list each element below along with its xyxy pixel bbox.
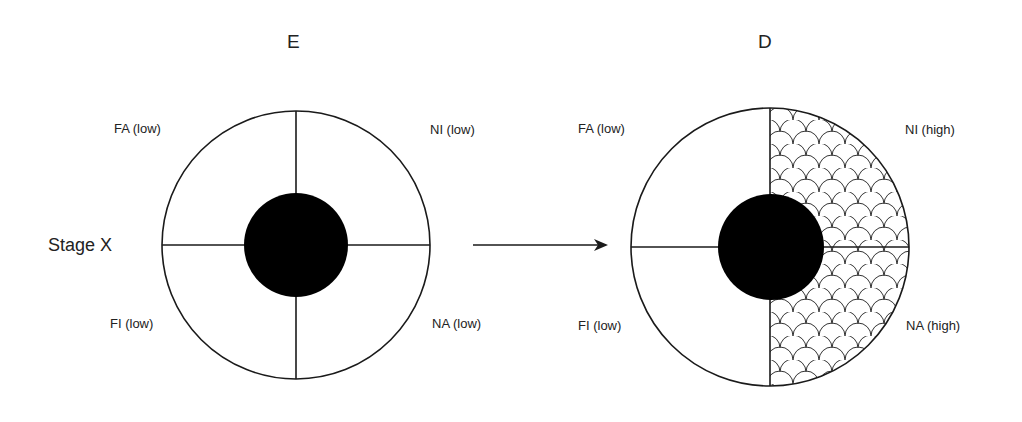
title-d: D <box>758 31 772 53</box>
diagram-canvas <box>0 0 1022 422</box>
circle-e <box>162 111 430 379</box>
label-d-na: NA (high) <box>906 318 960 333</box>
label-e-na: NA (low) <box>432 316 481 331</box>
label-d-ni: NI (high) <box>905 122 955 137</box>
label-e-ni: NI (low) <box>430 122 475 137</box>
label-e-fi: FI (low) <box>110 316 153 331</box>
label-d-fi: FI (low) <box>578 318 621 333</box>
label-d-fa: FA (low) <box>578 121 625 136</box>
circle-d <box>631 108 909 386</box>
title-e: E <box>287 31 300 53</box>
core-circle-d <box>718 194 824 300</box>
label-e-fa: FA (low) <box>114 121 161 136</box>
stage-label: Stage X <box>48 235 112 256</box>
core-circle-e <box>244 193 348 297</box>
